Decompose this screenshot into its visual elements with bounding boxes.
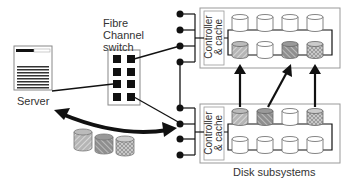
server-label: Server bbox=[17, 95, 49, 107]
disk-icon bbox=[257, 15, 273, 32]
disk-icon-patterned bbox=[74, 129, 92, 151]
disk-icon bbox=[232, 15, 248, 32]
switch-label: Fibre Channel switch bbox=[103, 17, 144, 53]
disk-icon-patterned bbox=[307, 109, 323, 126]
disk-subsystem-bottom bbox=[177, 104, 341, 163]
disk-icon-patterned bbox=[232, 42, 248, 59]
disk-icon-patterned bbox=[116, 136, 134, 156]
disk-icon bbox=[257, 42, 273, 59]
disk-icon bbox=[232, 137, 248, 154]
disk-icon bbox=[282, 109, 298, 126]
volumes-in-transit bbox=[74, 129, 134, 156]
disk-icon bbox=[307, 15, 323, 32]
disk-icon-patterned bbox=[95, 134, 113, 154]
server-icon bbox=[14, 46, 52, 90]
disk-icon-patterned bbox=[232, 109, 248, 126]
disk-icon-patterned bbox=[282, 42, 298, 59]
controller-cache-label-bottom: Controller & cache bbox=[204, 107, 224, 159]
disk-icon bbox=[307, 137, 323, 154]
disk-icon bbox=[282, 15, 298, 32]
disk-icon bbox=[257, 137, 273, 154]
disk-icon bbox=[282, 137, 298, 154]
data-flow-double-arrow bbox=[54, 108, 177, 137]
copy-arrows bbox=[234, 64, 321, 107]
disk-icon-patterned bbox=[257, 109, 273, 126]
storage-network-diagram bbox=[0, 0, 352, 186]
disk-icon-patterned bbox=[307, 42, 323, 59]
disk-subsystem-top bbox=[177, 8, 341, 68]
disk-subsystems-label: Disk subsystems bbox=[233, 166, 316, 178]
controller-cache-label-top: Controller & cache bbox=[204, 11, 224, 63]
